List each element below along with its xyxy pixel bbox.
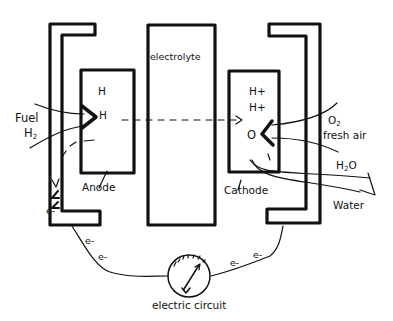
electron-label-5: e-: [46, 206, 55, 216]
anode-hydrogen-label-1: H: [98, 86, 106, 97]
right-bracket: [267, 24, 320, 223]
meter-icon: [168, 255, 210, 297]
water-arrowhead-icon: [360, 173, 375, 195]
water-label: Water: [333, 200, 364, 211]
electron-label-4: e-: [253, 250, 262, 260]
fuel-cell-diagram: electrolyte H H H+ H+ O Fuel H2 O2 fresh…: [0, 0, 393, 321]
cathode-oxygen-label: O: [247, 130, 256, 142]
oxygen-formula: O2: [328, 115, 341, 128]
fuel-formula: H2: [24, 128, 37, 141]
anode-electron-mark-2: [52, 191, 59, 198]
electrolyte-label: electrolyte: [150, 52, 201, 62]
circuit-wire-right: [211, 226, 283, 276]
fuel-flow-line-2: [30, 126, 84, 148]
anode-dash-1: [70, 142, 76, 146]
electron-label-3: e-: [230, 258, 239, 268]
air-arrowhead-icon: [262, 121, 273, 145]
diagram-drawing: [0, 0, 393, 321]
fresh-air-label: fresh air: [323, 130, 366, 141]
electron-label-1: e-: [85, 236, 94, 246]
electron-label-2: e-: [98, 252, 107, 262]
anode-electron-mark-1: [52, 179, 59, 187]
cathode-label: Cathode: [224, 185, 268, 196]
cathode-proton-label-2: H+: [249, 102, 266, 113]
fuel-flow-line-1: [35, 104, 84, 114]
left-bracket: [50, 24, 100, 225]
anode-tick: [84, 140, 94, 141]
cathode-tick: [268, 154, 270, 160]
circuit-wire-left: [72, 226, 168, 276]
water-formula: H2O: [336, 160, 357, 173]
anode-hydrogen-label-2: H: [99, 110, 107, 121]
fuel-arrowhead-icon: [82, 106, 96, 128]
electric-circuit-label: electric circuit: [152, 300, 226, 311]
anode-label: Anode: [82, 182, 115, 193]
proton-arrowhead-icon: [236, 116, 242, 124]
fuel-label: Fuel: [15, 113, 39, 125]
cathode-proton-label-1: H+: [249, 86, 266, 97]
